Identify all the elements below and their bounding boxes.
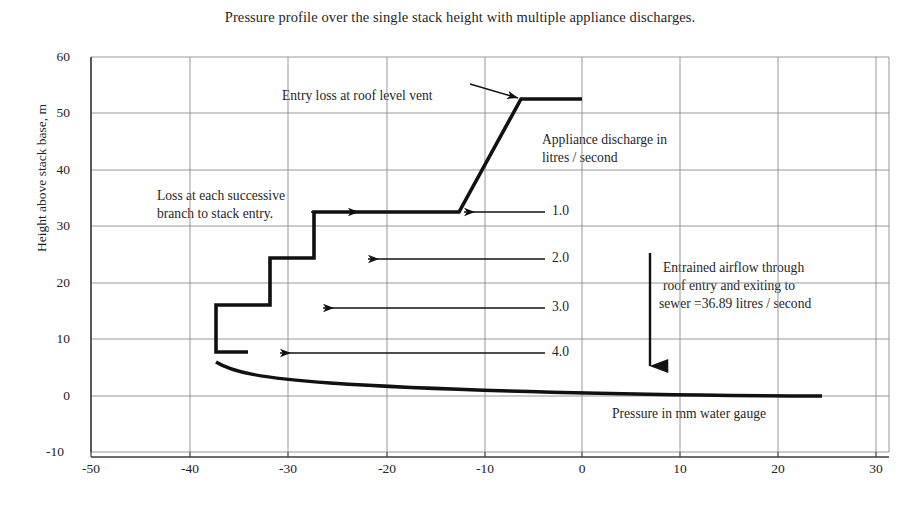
chart-canvas (0, 0, 920, 506)
annotation-arrows (280, 84, 650, 366)
chart-figure: Pressure profile over the single stack h… (0, 0, 920, 506)
series-line-vent-side (216, 99, 582, 352)
grid-vertical (91, 57, 889, 452)
grid-horizontal (91, 57, 889, 452)
series-line-sewer-side (216, 362, 822, 396)
arrow-entry-loss (470, 84, 518, 98)
